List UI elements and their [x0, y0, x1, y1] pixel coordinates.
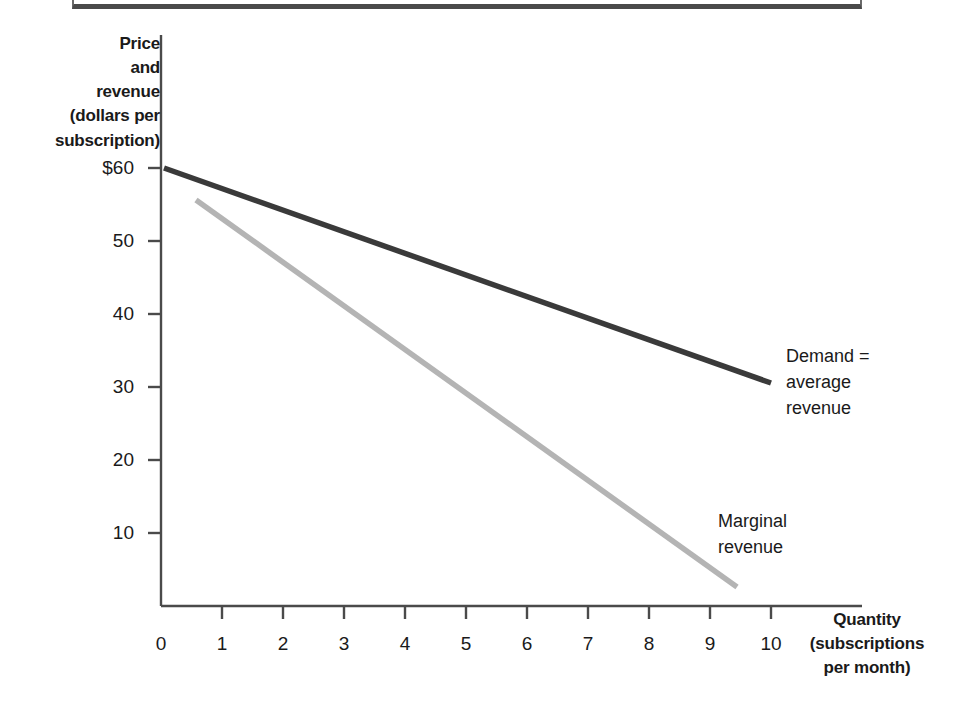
x-tick-label-7: 7: [568, 634, 608, 653]
x-axis-title: Quantity (subscriptions per month): [782, 608, 952, 680]
x-axis-ticks: [222, 606, 771, 619]
x-tick-label-2: 2: [263, 634, 303, 653]
y-tick-label-10: 10: [64, 523, 134, 542]
y-tick-label-60: $60: [64, 158, 134, 177]
x-tick-label-9: 9: [690, 634, 730, 653]
x-tick-label-4: 4: [385, 634, 425, 653]
x-tick-label-10: 10: [751, 634, 791, 653]
y-tick-label-20: 20: [64, 450, 134, 469]
x-tick-label-8: 8: [629, 634, 669, 653]
marginal-revenue-curve: [196, 200, 737, 587]
y-axis-ticks: [148, 168, 161, 533]
demand-curve: [164, 168, 771, 383]
x-tick-label-0: 0: [141, 634, 181, 653]
demand-curve-label: Demand = average revenue: [786, 343, 870, 421]
x-tick-label-5: 5: [446, 634, 486, 653]
x-tick-label-3: 3: [324, 634, 364, 653]
marginal-revenue-curve-label: Marginal revenue: [718, 508, 787, 560]
y-axis-title: Price and revenue (dollars per subscript…: [10, 32, 160, 153]
y-tick-label-30: 30: [64, 377, 134, 396]
x-tick-label-6: 6: [507, 634, 547, 653]
y-tick-label-50: 50: [64, 231, 134, 250]
chart-canvas: Price and revenue (dollars per subscript…: [0, 0, 955, 710]
x-tick-label-1: 1: [202, 634, 242, 653]
y-tick-label-40: 40: [64, 304, 134, 323]
